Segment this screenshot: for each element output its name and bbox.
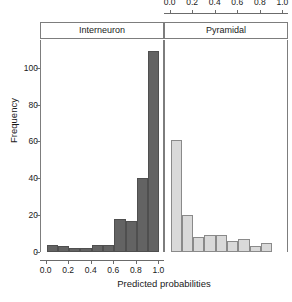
y-tick-label: 0 — [12, 247, 38, 257]
histogram-bar — [114, 219, 125, 252]
x-tick-label: 0.0 — [159, 0, 181, 7]
panel-pyramidal — [164, 40, 288, 252]
x-tick-label: 0.2 — [181, 0, 203, 7]
axis-line — [164, 13, 288, 14]
histogram-bar — [171, 140, 182, 252]
x-tick-mark — [170, 10, 171, 14]
histogram-bar — [92, 245, 103, 252]
x-axis-title: Predicted probabilities — [40, 278, 288, 289]
histogram-bar — [58, 246, 69, 252]
y-tick-label: 40 — [12, 173, 38, 183]
x-tick-mark — [91, 260, 92, 264]
x-tick-mark — [113, 260, 114, 264]
histogram-bar — [80, 248, 91, 252]
histogram-bar — [238, 239, 249, 252]
x-tick-mark — [215, 10, 216, 14]
panel-header-pyramidal: Pyramidal — [164, 22, 288, 39]
x-tick-mark — [282, 10, 283, 14]
histogram-bar — [227, 241, 238, 252]
panel-header-interneuron: Interneuron — [40, 22, 164, 39]
x-tick-label: 1.0 — [271, 0, 292, 7]
histogram-bar — [216, 235, 227, 252]
histogram-bar — [47, 245, 58, 252]
x-tick-label: 0.6 — [102, 265, 124, 275]
y-tick-mark — [36, 252, 40, 253]
x-tick-label: 0.0 — [35, 265, 57, 275]
histogram-bar — [69, 248, 80, 252]
y-tick-label: 20 — [12, 210, 38, 220]
y-tick-label: 100 — [12, 63, 38, 73]
y-tick-label: 80 — [12, 100, 38, 110]
y-tick-label: 60 — [12, 136, 38, 146]
panel-interneuron — [40, 40, 164, 252]
histogram-bar — [137, 178, 148, 252]
x-tick-mark — [192, 10, 193, 14]
histogram-bar — [126, 221, 137, 252]
x-tick-label: 0.8 — [125, 265, 147, 275]
x-tick-label: 1.0 — [147, 265, 169, 275]
y-axis-ticks: 020406080100 — [12, 0, 38, 302]
x-tick-mark — [46, 260, 47, 264]
histogram-bar — [193, 237, 204, 252]
x-tick-mark — [68, 260, 69, 264]
histogram-bar — [250, 246, 261, 252]
x-tick-mark — [260, 10, 261, 14]
x-tick-label: 0.6 — [226, 0, 248, 7]
x-tick-mark — [237, 10, 238, 14]
histogram-bar — [148, 51, 159, 252]
histogram-bar — [182, 215, 193, 252]
x-tick-label: 0.4 — [204, 0, 226, 7]
x-tick-mark — [136, 260, 137, 264]
x-tick-label: 0.2 — [57, 265, 79, 275]
histogram-bar — [261, 243, 272, 252]
histogram-bar — [103, 245, 114, 252]
histogram-figure: Frequency Predicted probabilities 020406… — [0, 0, 292, 302]
axis-line — [40, 260, 164, 261]
x-tick-mark — [158, 260, 159, 264]
x-tick-label: 0.8 — [249, 0, 271, 7]
x-tick-label: 0.4 — [80, 265, 102, 275]
histogram-bar — [204, 235, 215, 252]
